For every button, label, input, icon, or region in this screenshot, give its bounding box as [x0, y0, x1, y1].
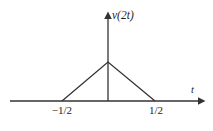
x-tick-label-negative-half: −1/2 — [44, 105, 80, 116]
x-axis-label: t — [191, 85, 194, 96]
x-axis-arrowhead-icon — [198, 97, 206, 105]
x-tick-label-positive-half: 1/2 — [142, 105, 170, 116]
signal-axis-label: v(2t) — [112, 10, 134, 22]
y-axis-arrowhead-icon — [104, 12, 112, 20]
signal-plot-figure: v(2t) t −1/2 1/2 — [0, 0, 213, 131]
plot-canvas — [0, 0, 213, 131]
